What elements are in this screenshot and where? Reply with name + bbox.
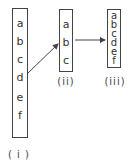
arrows-layer [0, 0, 133, 168]
arrow-i-to-ii [28, 44, 58, 73]
